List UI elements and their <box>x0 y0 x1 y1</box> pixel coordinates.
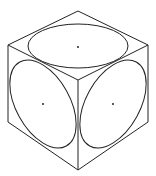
diagram-canvas <box>0 0 156 176</box>
ellipse-right-face <box>66 49 156 159</box>
center-dot-left <box>42 103 44 105</box>
isometric-cube-diagram <box>0 0 156 176</box>
center-dot-right <box>112 103 114 105</box>
ellipse-left-face <box>0 49 90 159</box>
center-dot-top <box>77 46 79 48</box>
